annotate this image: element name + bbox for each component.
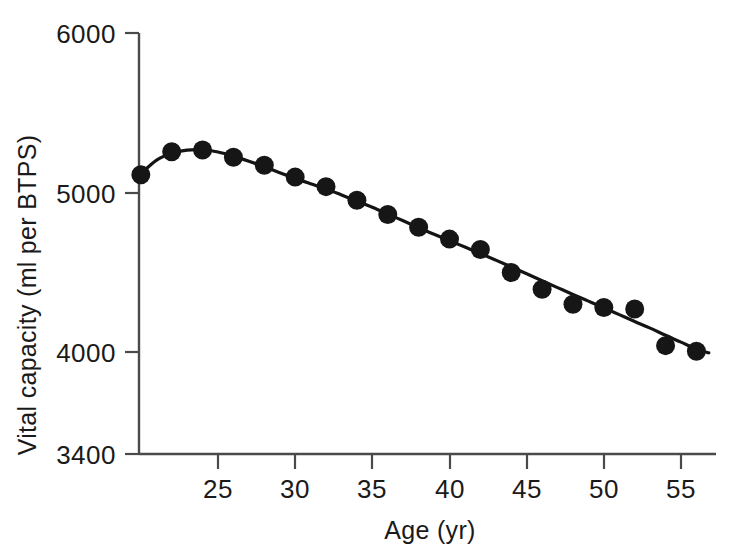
y-tick-marks bbox=[125, 33, 139, 454]
fitted-trend-line bbox=[141, 150, 709, 353]
x-tick-label-55: 55 bbox=[666, 474, 696, 504]
data-point bbox=[378, 205, 397, 224]
data-point bbox=[162, 142, 181, 161]
data-point bbox=[625, 300, 644, 319]
x-tick-label-25: 25 bbox=[203, 474, 233, 504]
x-tick-label-30: 30 bbox=[280, 474, 310, 504]
data-point bbox=[594, 298, 613, 317]
x-tick-label-35: 35 bbox=[357, 474, 387, 504]
data-point bbox=[440, 230, 459, 249]
chart-figure: Vital capacity (ml per BTPS) 6000 5000 4… bbox=[0, 0, 730, 558]
data-point bbox=[286, 168, 305, 187]
y-axis-title: Vital capacity (ml per BTPS) bbox=[13, 135, 41, 456]
data-point bbox=[533, 280, 552, 299]
y-tick-label-5000: 5000 bbox=[56, 179, 116, 209]
data-point bbox=[255, 156, 274, 175]
vital-capacity-vs-age-scatter-plot: Vital capacity (ml per BTPS) 6000 5000 4… bbox=[0, 0, 730, 558]
x-tick-label-40: 40 bbox=[435, 474, 465, 504]
data-point bbox=[224, 148, 243, 167]
data-point bbox=[193, 141, 212, 160]
data-point bbox=[317, 177, 336, 196]
y-tick-label-3400: 3400 bbox=[56, 440, 116, 470]
y-tick-labels: 6000 5000 4000 3400 bbox=[56, 19, 116, 470]
x-tick-labels: 25 30 35 40 45 50 55 bbox=[203, 474, 696, 504]
x-tick-marks bbox=[218, 454, 681, 469]
x-tick-label-45: 45 bbox=[512, 474, 542, 504]
x-tick-label-50: 50 bbox=[589, 474, 619, 504]
y-tick-label-6000: 6000 bbox=[56, 19, 116, 49]
data-point bbox=[471, 240, 490, 259]
data-point bbox=[347, 191, 366, 210]
data-point bbox=[687, 342, 706, 361]
data-point bbox=[563, 295, 582, 314]
x-axis-title: Age (yr) bbox=[384, 516, 475, 544]
y-tick-label-4000: 4000 bbox=[56, 338, 116, 368]
data-point bbox=[131, 165, 150, 184]
data-point bbox=[656, 336, 675, 355]
data-point bbox=[502, 263, 521, 282]
data-point bbox=[409, 218, 428, 237]
data-point-series bbox=[131, 141, 706, 361]
